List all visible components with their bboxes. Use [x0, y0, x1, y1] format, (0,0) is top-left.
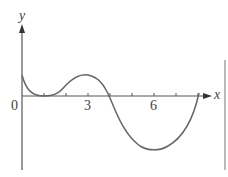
- chart-canvas: [0, 0, 228, 177]
- y-axis-label: y: [19, 8, 25, 24]
- function-curve: [22, 75, 199, 150]
- y-arrow-icon: [19, 24, 25, 33]
- x-arrow-icon: [203, 93, 212, 99]
- x-axis-label: x: [214, 87, 220, 103]
- origin-label: 0: [11, 98, 18, 114]
- tick-label-6: 6: [150, 98, 157, 114]
- tick-label-3: 3: [84, 98, 91, 114]
